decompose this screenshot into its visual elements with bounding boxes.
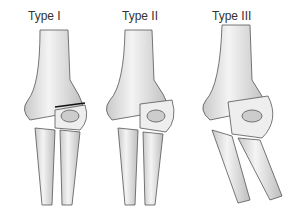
type-iii-elbow (203, 25, 282, 203)
type-ii-label: Type II (122, 9, 158, 23)
type-ii-elbow (106, 30, 174, 205)
elbow-fracture-classification-figure: Type I Type II Type III (0, 0, 305, 209)
type-iii-label: Type III (212, 9, 251, 23)
type-i-elbow (24, 30, 86, 205)
elbow-illustrations (0, 0, 305, 209)
type-i-label: Type I (28, 9, 61, 23)
